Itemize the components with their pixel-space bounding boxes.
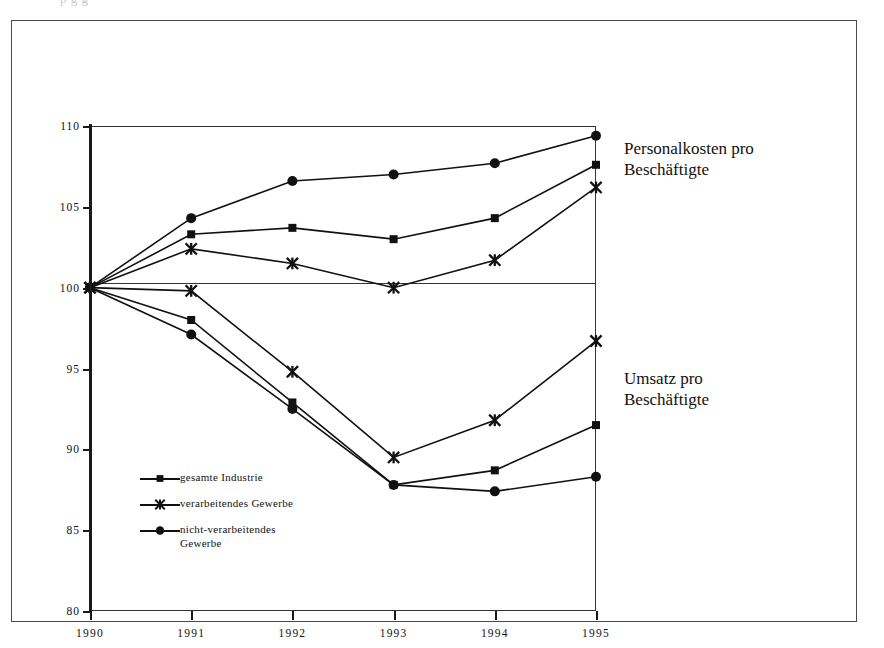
series-group <box>84 282 601 497</box>
annotation-personalkosten: Personalkosten pro Beschäftigte <box>624 139 754 180</box>
square-marker <box>491 466 499 474</box>
circle-marker <box>156 526 165 535</box>
cross-star-marker <box>590 182 601 194</box>
x-axis-tick-label: 1990 <box>76 627 104 639</box>
y-axis-tick-label: 85 <box>67 524 81 536</box>
cross-star-marker <box>388 452 399 464</box>
series-line <box>90 187 596 287</box>
square-marker <box>390 235 398 243</box>
x-axis-tick <box>292 611 294 620</box>
square-marker <box>187 230 195 238</box>
y-axis-tick-label: 105 <box>60 201 80 213</box>
cross-star-marker <box>388 282 399 294</box>
figure-root: p g g 80859095100105110 1990199119921993… <box>0 0 884 648</box>
annotation-umsatz: Umsatz pro Beschäftigte <box>624 369 709 410</box>
y-axis-tick-label: 80 <box>67 605 81 617</box>
y-axis-tick-label: 110 <box>60 120 80 132</box>
legend-marker-svg <box>140 498 180 511</box>
x-axis-tick <box>191 611 193 620</box>
series-line <box>90 136 596 288</box>
chart-legend: gesamte Industrieverarbeitendes Gewerben… <box>140 471 293 563</box>
legend-item: nicht-verarbeitendes Gewerbe <box>140 523 293 551</box>
legend-key <box>140 498 180 511</box>
y-axis-tick-label: 90 <box>67 443 81 455</box>
y-axis-spine <box>89 124 92 613</box>
scan-artifact-top: p g g <box>0 0 884 8</box>
legend-label: gesamte Industrie <box>180 471 263 485</box>
square-marker <box>491 214 499 222</box>
square-marker <box>288 224 296 232</box>
square-marker <box>592 421 600 429</box>
legend-label: nicht-verarbeitendes Gewerbe <box>180 523 276 551</box>
x-axis-tick-label: 1992 <box>278 627 306 639</box>
x-axis-tick-label: 1993 <box>380 627 408 639</box>
x-axis-tick-label: 1991 <box>177 627 205 639</box>
series-line <box>90 165 596 288</box>
square-marker <box>157 475 164 482</box>
circle-marker <box>490 486 500 496</box>
cross-star-marker <box>489 414 500 426</box>
cross-star-marker <box>590 335 601 347</box>
legend-label: verarbeitendes Gewerbe <box>180 497 293 511</box>
square-marker <box>187 316 195 324</box>
x-axis-tick-label: 1994 <box>481 627 509 639</box>
circle-marker <box>591 131 601 141</box>
square-marker <box>592 161 600 169</box>
x-axis-tick <box>495 611 497 620</box>
legend-item: verarbeitendes Gewerbe <box>140 497 293 511</box>
y-axis-tick-label: 100 <box>60 282 80 294</box>
circle-marker <box>186 330 196 340</box>
legend-key <box>140 472 180 485</box>
x-axis-tick-label: 1995 <box>582 627 610 639</box>
circle-marker <box>591 472 601 482</box>
legend-marker-svg <box>140 472 180 485</box>
series-line <box>90 288 596 492</box>
legend-key <box>140 524 180 537</box>
scan-ghost-text: p g g <box>60 0 89 7</box>
circle-marker <box>186 213 196 223</box>
series-line <box>90 288 596 485</box>
circle-marker <box>287 404 297 414</box>
x-axis-tick <box>596 611 598 620</box>
legend-marker-svg <box>140 524 180 537</box>
series-line <box>90 288 596 458</box>
cross-star-marker <box>287 366 298 378</box>
x-axis-tick <box>394 611 396 620</box>
series-group <box>84 131 601 294</box>
legend-item: gesamte Industrie <box>140 471 293 485</box>
cross-star-marker <box>489 254 500 266</box>
circle-marker <box>490 158 500 168</box>
figure-frame: 80859095100105110 1990199119921993199419… <box>11 20 857 622</box>
circle-marker <box>389 170 399 180</box>
circle-marker <box>287 176 297 186</box>
cross-star-marker <box>155 500 165 510</box>
y-axis-tick-label: 95 <box>67 363 81 375</box>
circle-marker <box>389 480 399 490</box>
